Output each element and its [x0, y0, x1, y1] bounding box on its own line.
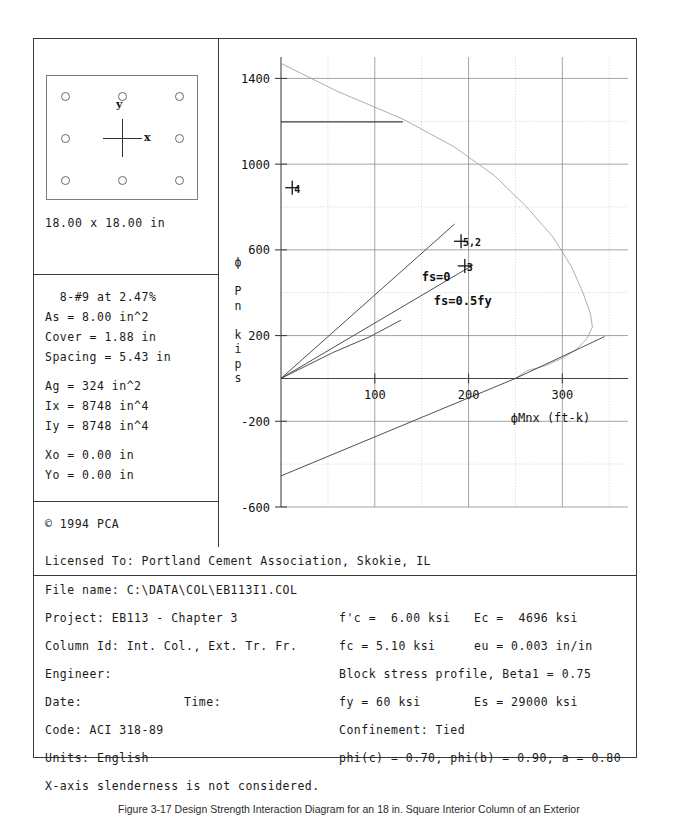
upper-region: y x 18.00 x 18.00 in 8-#9 at 2.47%As = 8… — [34, 39, 636, 547]
copyright-text: © 1994 PCA — [45, 517, 119, 531]
rebar-dot — [61, 92, 70, 101]
info-row: Code: ACI 318-89Confinement: Tied — [34, 716, 636, 744]
info-cell-mid: fy = 60 ksi — [339, 695, 421, 709]
info-cell-mid: phi(c) = 0.70, phi(b) = 0.90, a = 0.80 — [339, 751, 621, 765]
info-cell-time: Time: — [184, 695, 221, 709]
x-axis-tick-label: 200 — [458, 388, 480, 402]
y-axis-tick-label: 1400 — [241, 72, 270, 86]
section-properties-column: y x 18.00 x 18.00 in 8-#9 at 2.47%As = 8… — [34, 39, 219, 547]
info-cell-right: Es = 29000 ksi — [474, 695, 578, 709]
report-sheet: y x 18.00 x 18.00 in 8-#9 at 2.47%As = 8… — [33, 38, 637, 758]
info-table: File name: C:\DATA\COL\EB113I1.COLProjec… — [34, 576, 636, 757]
info-cell-mid: f'c = 6.00 ksi — [339, 611, 450, 625]
point-marker-label: 3 — [467, 262, 473, 273]
properties-line: Ix = 8748 in^4 — [45, 396, 218, 416]
info-cell-label: Column Id: Int. Col., Ext. Tr. Fr. — [45, 639, 297, 653]
chart-annotation: fs=0 — [422, 270, 451, 284]
y-axis-tick-label: 200 — [248, 329, 270, 343]
rebar-dot — [175, 92, 184, 101]
properties-line: Ag = 324 in^2 — [45, 376, 218, 396]
properties-line: Xo = 0.00 in — [45, 445, 218, 465]
rebar-dot — [61, 176, 70, 185]
license-row: Licensed To: Portland Cement Association… — [34, 547, 636, 576]
info-cell-label: Code: ACI 318-89 — [45, 723, 164, 737]
info-cell-mid: Confinement: Tied — [339, 723, 465, 737]
rebar-dot — [175, 176, 184, 185]
y-axis-tick-label: 1000 — [241, 158, 270, 172]
interaction-diagram-panel: ф Pn kips 14001000600200-200-60010020030… — [219, 39, 636, 547]
info-cell-label: Units: English — [45, 751, 149, 765]
properties-line: As = 8.00 in^2 — [45, 307, 218, 327]
interaction-diagram-svg: 14001000600200-200-600100200300фMnx (ft-… — [219, 39, 638, 547]
info-cell-right: eu = 0.003 in/in — [474, 639, 593, 653]
figure-caption: Figure 3-17 Design Strength Interaction … — [118, 803, 658, 815]
section-dimension-text: 18.00 x 18.00 in — [45, 216, 165, 230]
y-axis-tick-label: -600 — [241, 501, 270, 515]
properties-gap — [45, 367, 218, 376]
license-text: Licensed To: Portland Cement Association… — [45, 554, 431, 568]
info-cell-label: File name: C:\DATA\COL\EB113I1.COL — [45, 583, 297, 597]
info-cell-mid: fc = 5.10 ksi — [339, 639, 436, 653]
properties-line: Yo = 0.00 in — [45, 465, 218, 485]
cross-section-panel: y x 18.00 x 18.00 in — [34, 39, 218, 275]
point-marker-label: 5,2 — [463, 237, 481, 248]
info-row: Units: Englishphi(c) = 0.70, phi(b) = 0.… — [34, 744, 636, 772]
info-cell-right: Ec = 4696 ksi — [474, 611, 578, 625]
properties-list: 8-#9 at 2.47%As = 8.00 in^2Cover = 1.88 … — [34, 275, 218, 502]
chart-series-fs-equals-0-line — [281, 224, 455, 378]
point-marker-label: 4 — [294, 184, 300, 195]
chart-series-lower-tension-branch — [281, 337, 605, 476]
chart-wrap: ф Pn kips 14001000600200-200-60010020030… — [219, 39, 638, 547]
info-cell-mid: Block stress profile, Beta1 = 0.75 — [339, 667, 591, 681]
info-row: Date:Time:fy = 60 ksiEs = 29000 ksi — [34, 688, 636, 716]
chart-series-left-lower-curve — [281, 320, 401, 378]
section-y-axis-label: y — [116, 98, 122, 111]
section-x-axis-line — [103, 138, 142, 139]
y-axis-tick-label: 600 — [248, 243, 270, 257]
properties-line: Cover = 1.88 in — [45, 327, 218, 347]
info-cell-label: Engineer: — [45, 667, 112, 681]
y-axis-tick-label: -200 — [241, 415, 270, 429]
info-row: File name: C:\DATA\COL\EB113I1.COL — [34, 576, 636, 604]
properties-line: Iy = 8748 in^4 — [45, 416, 218, 436]
x-axis-title: фMnx (ft-k) — [511, 411, 590, 425]
section-x-axis-label: x — [144, 131, 151, 144]
info-row: X-axis slenderness is not considered. — [34, 772, 636, 800]
chart-annotation: fs=0.5fy — [434, 294, 492, 308]
column-cross-section: y x — [46, 75, 198, 200]
info-row: Engineer:Block stress profile, Beta1 = 0… — [34, 660, 636, 688]
info-cell-label: Project: EB113 - Chapter 3 — [45, 611, 238, 625]
rebar-dot — [175, 134, 184, 143]
info-row: Project: EB113 - Chapter 3f'c = 6.00 ksi… — [34, 604, 636, 632]
info-row: Column Id: Int. Col., Ext. Tr. Fr.fc = 5… — [34, 632, 636, 660]
properties-line: 8-#9 at 2.47% — [45, 287, 218, 307]
x-axis-tick-label: 100 — [364, 388, 386, 402]
info-cell-label: Date: — [45, 695, 82, 709]
properties-gap — [45, 436, 218, 445]
info-cell-label: X-axis slenderness is not considered. — [45, 779, 320, 793]
x-axis-tick-label: 300 — [552, 388, 574, 402]
rebar-dot — [61, 134, 70, 143]
properties-line: Spacing = 5.43 in — [45, 347, 218, 367]
rebar-dot — [118, 176, 127, 185]
